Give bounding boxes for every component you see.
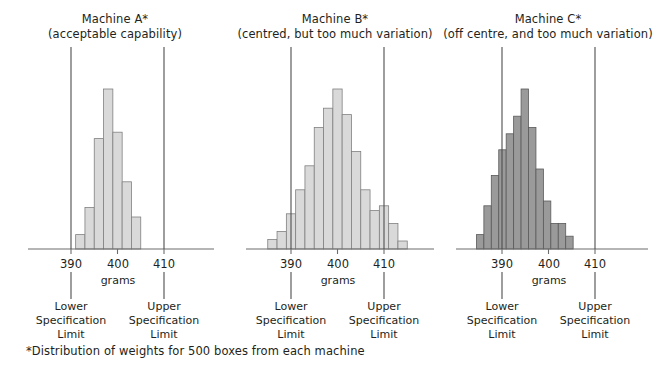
histogram-bar — [529, 127, 536, 249]
histogram-bar — [521, 89, 528, 249]
upper-spec-caption-a: Upper Specification Limit — [109, 300, 219, 342]
chart-panel-machine-a: Machine A* (acceptable capability) 390 4… — [0, 0, 230, 345]
x-tick-390-b: 390 — [271, 257, 311, 271]
histogram-bar — [370, 211, 379, 249]
histogram-bar — [506, 134, 513, 249]
histogram-bar — [268, 239, 277, 249]
x-tick-390-a: 390 — [51, 257, 91, 271]
histogram-bar — [314, 127, 323, 249]
histogram-machine-a — [0, 0, 230, 345]
upper-spec-line1-a: Upper — [109, 300, 219, 314]
upper-spec-line2-c: Specification — [540, 314, 650, 328]
histogram-bar — [514, 116, 521, 249]
histogram-bar — [333, 89, 342, 249]
histogram-bar — [324, 108, 333, 249]
histogram-bar — [342, 115, 351, 249]
histogram-bar — [296, 190, 305, 249]
upper-spec-line1-c: Upper — [540, 300, 650, 314]
x-axis-label-b: grams — [278, 274, 398, 287]
histogram-bar — [122, 182, 131, 249]
upper-spec-line2-b: Specification — [329, 314, 439, 328]
upper-spec-caption-c: Upper Specification Limit — [540, 300, 650, 342]
histogram-bar — [543, 201, 550, 249]
histogram-bar — [476, 235, 483, 249]
process-capability-figure: Machine A* (acceptable capability) 390 4… — [0, 0, 656, 367]
histogram-bar — [305, 166, 314, 249]
histogram-bar — [491, 175, 498, 249]
figure-footnote: *Distribution of weights for 500 boxes f… — [26, 344, 365, 358]
x-tick-410-c: 410 — [575, 257, 615, 271]
x-axis-label-a: grams — [58, 274, 178, 287]
histogram-bar — [277, 231, 286, 249]
histogram-bar — [104, 89, 113, 249]
chart-panel-machine-c: Machine C* (off centre, and too much var… — [440, 0, 656, 345]
histogram-bar — [113, 132, 122, 249]
histogram-bar — [551, 223, 558, 249]
histogram-bar — [131, 217, 140, 249]
histogram-bar — [484, 206, 491, 249]
upper-spec-line1-b: Upper — [329, 300, 439, 314]
x-tick-410-b: 410 — [364, 257, 404, 271]
histogram-bar — [361, 190, 370, 249]
histogram-bar — [398, 241, 407, 249]
histogram-bar — [558, 223, 565, 249]
upper-spec-line3-b: Limit — [329, 328, 439, 342]
histogram-bar — [351, 151, 360, 249]
histogram-bar — [566, 236, 573, 249]
x-tick-390-c: 390 — [482, 257, 522, 271]
chart-panel-machine-b: Machine B* (centred, but too much variat… — [228, 0, 442, 345]
x-tick-400-b: 400 — [318, 257, 358, 271]
upper-spec-line2-a: Specification — [109, 314, 219, 328]
upper-spec-line3-c: Limit — [540, 328, 650, 342]
x-tick-410-a: 410 — [144, 257, 184, 271]
histogram-bars — [76, 89, 141, 249]
upper-spec-line3-a: Limit — [109, 328, 219, 342]
histogram-bars — [268, 89, 408, 249]
x-tick-400-a: 400 — [98, 257, 138, 271]
histogram-machine-b — [228, 0, 442, 345]
histogram-bar — [389, 223, 398, 249]
upper-spec-caption-b: Upper Specification Limit — [329, 300, 439, 342]
x-axis-label-c: grams — [489, 274, 609, 287]
histogram-bar — [76, 235, 85, 249]
histogram-machine-c — [440, 0, 656, 345]
histogram-bars — [476, 89, 573, 249]
histogram-bar — [94, 139, 103, 249]
histogram-bar — [536, 169, 543, 249]
x-tick-400-c: 400 — [529, 257, 569, 271]
histogram-bar — [85, 207, 94, 249]
